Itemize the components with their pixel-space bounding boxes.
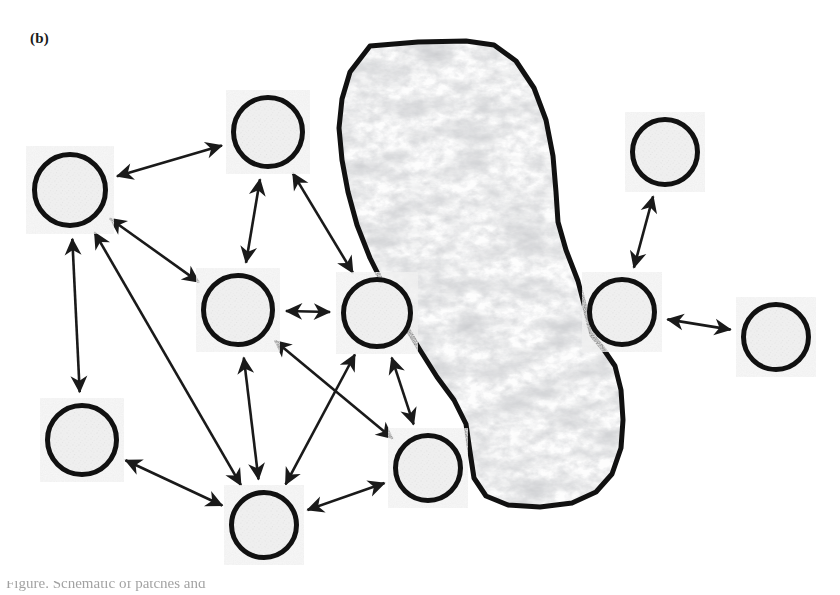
patch-center-right (343, 279, 411, 347)
patch-top-right (632, 119, 698, 185)
patch-top-left (34, 154, 106, 226)
caption-fragment: Figure. Schematic of patches and (6, 581, 206, 592)
link-n9-n10 (667, 319, 730, 329)
link-n3-n6 (244, 358, 259, 480)
link-n3-n7 (275, 341, 393, 439)
link-n1-n5 (72, 239, 79, 392)
link-n4-n7 (392, 358, 414, 425)
link-n2-n4 (293, 173, 353, 273)
patch-top-middle (233, 97, 303, 167)
link-n1-n2 (117, 146, 222, 177)
link-n1-n3 (110, 219, 199, 283)
network-diagram-canvas (0, 0, 840, 595)
link-n8-n9 (634, 196, 653, 267)
patch-lower-left (47, 405, 117, 475)
caption-strip: Figure. Schematic of patches and (0, 581, 840, 595)
patch-bottom-center (231, 492, 297, 558)
patch-bottom-right (395, 435, 461, 501)
link-n2-n3 (246, 179, 260, 262)
link-n3-n4 (286, 311, 330, 312)
link-n6-n7 (308, 483, 385, 510)
link-n4-n6 (286, 355, 355, 485)
patch-right-middle (589, 279, 655, 345)
patch-center-left (203, 275, 273, 345)
link-n5-n6 (126, 460, 223, 505)
figure-panel-b: (b) (0, 0, 840, 595)
patch-far-right (743, 304, 809, 370)
